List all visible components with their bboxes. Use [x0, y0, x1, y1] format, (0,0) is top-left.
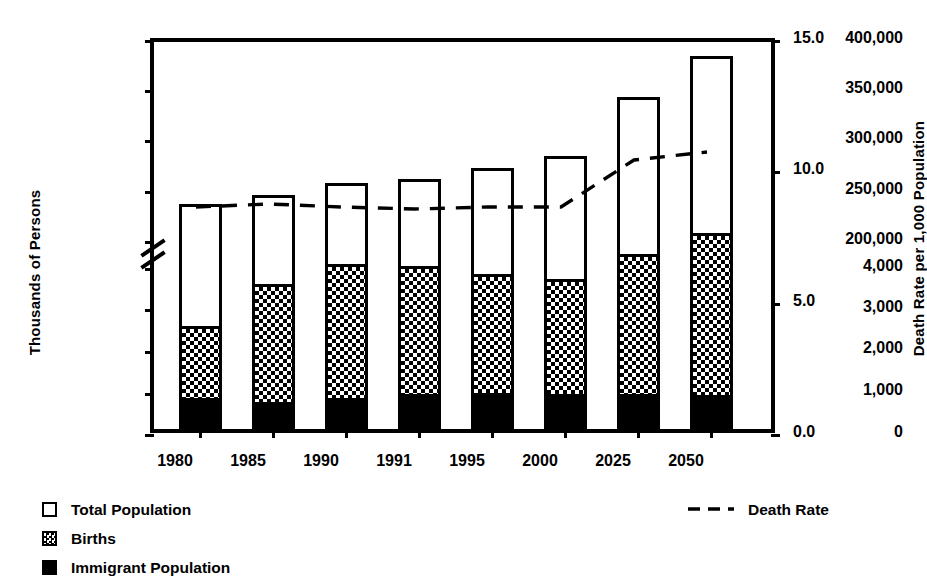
legend-item-births: Births [42, 526, 230, 551]
y-axis-title-left: Thousands of Persons [26, 143, 43, 403]
x-axis-label-2025: 2025 [573, 452, 653, 470]
y-tick-200000 [145, 241, 154, 244]
y-tick-300000 [145, 140, 154, 143]
bar-segment-immigrant-population [690, 395, 733, 429]
y2-tick-10 [771, 171, 780, 174]
x-tick-1985 [272, 429, 275, 438]
bar-segment-immigrant-population [471, 393, 514, 429]
x-axis-label-1985: 1985 [208, 452, 288, 470]
x-tick-2025 [637, 429, 640, 438]
y2-tick-label-10: 10.0 [793, 160, 824, 178]
y2-tick-5 [771, 303, 780, 306]
y-tick-label-200000: 200,000 [763, 230, 903, 248]
legend-label: Births [71, 530, 116, 548]
x-tick-1995 [491, 429, 494, 438]
black-box-icon [42, 560, 57, 575]
y-tick-2000 [145, 351, 154, 354]
legend-label: Immigrant Population [71, 559, 230, 577]
x-axis-label-2050: 2050 [646, 452, 726, 470]
x-tick-2050 [710, 429, 713, 438]
bar-segment-immigrant-population [179, 398, 222, 429]
y-tick-4000 [145, 268, 154, 271]
bar-segment-immigrant-population [398, 394, 441, 429]
legend-left: Total Population Births Immigrant Popula… [42, 497, 230, 579]
legend-item-immigrant-population: Immigrant Population [42, 555, 230, 579]
y2-tick-label-15: 15.0 [793, 29, 824, 47]
bar-segment-immigrant-population [325, 398, 368, 429]
y-tick-label-1000: 1,000 [763, 381, 903, 399]
x-axis-label-1980: 1980 [135, 452, 215, 470]
checkered-box-icon [42, 531, 57, 546]
x-tick-1990 [345, 429, 348, 438]
y-tick-label-250000: 250,000 [763, 180, 903, 198]
y-tick-0 [145, 434, 154, 437]
y2-tick-label-0: 0.0 [793, 423, 815, 441]
y-tick-250000 [145, 191, 154, 194]
y-axis-title-right: Death Rate per 1,000 Population [910, 89, 927, 389]
y-tick-label-4000: 4,000 [763, 257, 903, 275]
x-axis-label-1990: 1990 [281, 452, 361, 470]
y2-tick-15 [771, 40, 780, 43]
x-axis-label-2000: 2000 [500, 452, 580, 470]
y-tick-3000 [145, 309, 154, 312]
x-tick-1980 [199, 429, 202, 438]
x-axis-label-1991: 1991 [354, 452, 434, 470]
legend-label: Death Rate [748, 501, 829, 519]
y2-tick-0 [771, 434, 780, 437]
bar-segment-immigrant-population [617, 394, 660, 429]
y-tick-label-350000: 350,000 [763, 79, 903, 97]
x-tick-2000 [564, 429, 567, 438]
bar-segment-immigrant-population [252, 402, 295, 429]
y-tick-400000 [145, 40, 154, 43]
plot-area [150, 38, 775, 433]
y-tick-label-2000: 2,000 [763, 339, 903, 357]
y-tick-label-0: 0 [763, 423, 903, 441]
legend-item-total-population: Total Population [42, 497, 230, 522]
x-axis-label-1995: 1995 [427, 452, 507, 470]
legend-right: Death Rate [688, 497, 829, 522]
y2-tick-label-5: 5.0 [793, 292, 815, 310]
white-box-icon [42, 502, 57, 517]
x-tick-1991 [418, 429, 421, 438]
bar-segment-immigrant-population [544, 394, 587, 429]
y-tick-label-300000: 300,000 [763, 129, 903, 147]
y-tick-1000 [145, 393, 154, 396]
y-tick-label-3000: 3,000 [763, 298, 903, 316]
y-tick-350000 [145, 90, 154, 93]
y-tick-label-400000: 400,000 [763, 29, 903, 47]
legend-label: Total Population [71, 501, 191, 519]
dashed-line-icon [688, 497, 734, 522]
